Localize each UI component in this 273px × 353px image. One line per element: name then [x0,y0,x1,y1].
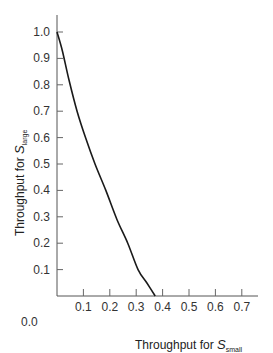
origin-label: 0.0 [21,315,38,329]
chart-canvas: 0.10.20.30.40.50.60.70.80.91.0 0.10.20.3… [0,0,273,353]
data-series-curve [57,32,155,296]
x-tick-label: 0.6 [207,300,224,314]
x-axis-ticks: 0.10.20.30.40.50.60.7 [75,289,250,314]
y-tick-label: 0.7 [33,104,50,118]
axes [57,15,258,296]
x-tick-label: 0.2 [101,300,118,314]
x-tick-label: 0.3 [128,300,145,314]
x-axis-label: Throughput for Ssmall [135,337,243,353]
y-tick-label: 0.9 [33,51,50,65]
y-tick-label: 0.6 [33,131,50,145]
y-tick-label: 0.2 [33,236,50,250]
y-tick-label: 1.0 [33,25,50,39]
y-axis-ticks: 0.10.20.30.40.50.60.70.80.91.0 [33,25,63,277]
y-axis-label: Throughput for Slarge [12,130,29,236]
y-tick-label: 0.4 [33,183,50,197]
x-tick-label: 0.5 [181,300,198,314]
x-tick-label: 0.1 [75,300,92,314]
x-tick-label: 0.7 [233,300,250,314]
y-tick-label: 0.1 [33,263,50,277]
x-tick-label: 0.4 [154,300,171,314]
y-tick-label: 0.5 [33,157,50,171]
y-tick-label: 0.8 [33,78,50,92]
y-tick-label: 0.3 [33,210,50,224]
